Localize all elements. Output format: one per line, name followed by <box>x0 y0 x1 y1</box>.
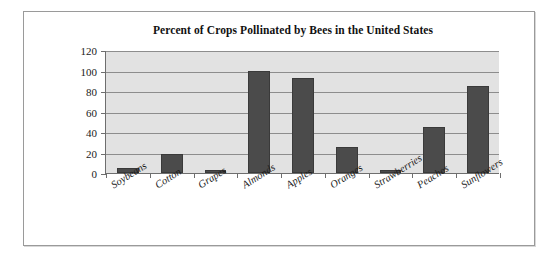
y-axis-tick-label: 80 <box>86 86 97 98</box>
plot-area: 020406080100120 <box>105 51 499 174</box>
x-axis-tick <box>194 173 195 178</box>
y-axis-tick <box>101 92 106 93</box>
y-axis-tick <box>101 51 106 52</box>
bar-apples[interactable] <box>292 78 314 173</box>
x-axis-tick <box>412 173 413 178</box>
y-axis-tick <box>101 133 106 134</box>
y-axis-tick <box>101 113 106 114</box>
x-axis-tick <box>500 173 501 178</box>
y-axis-tick-label: 0 <box>92 168 98 180</box>
x-axis-tick <box>281 173 282 178</box>
y-axis-tick-label: 120 <box>81 45 98 57</box>
bar-almonds[interactable] <box>248 71 270 174</box>
x-axis-tick <box>325 173 326 178</box>
y-axis-tick-label: 100 <box>81 66 98 78</box>
chart-title: Percent of Crops Pollinated by Bees in t… <box>24 24 534 36</box>
gridline <box>106 51 499 52</box>
gridline <box>106 72 499 73</box>
bar-sunflowers[interactable] <box>467 86 489 173</box>
x-axis-tick <box>106 173 107 178</box>
y-axis-tick-label: 40 <box>86 127 97 139</box>
y-axis-tick <box>101 154 106 155</box>
y-axis-tick <box>101 72 106 73</box>
x-axis-tick <box>369 173 370 178</box>
y-axis-tick-label: 60 <box>86 107 97 119</box>
chart-figure-frame: Percent of Crops Pollinated by Bees in t… <box>23 11 535 246</box>
y-axis-tick-label: 20 <box>86 148 97 160</box>
x-axis-tick <box>237 173 238 178</box>
x-axis-tick <box>150 173 151 178</box>
x-axis-tick <box>456 173 457 178</box>
